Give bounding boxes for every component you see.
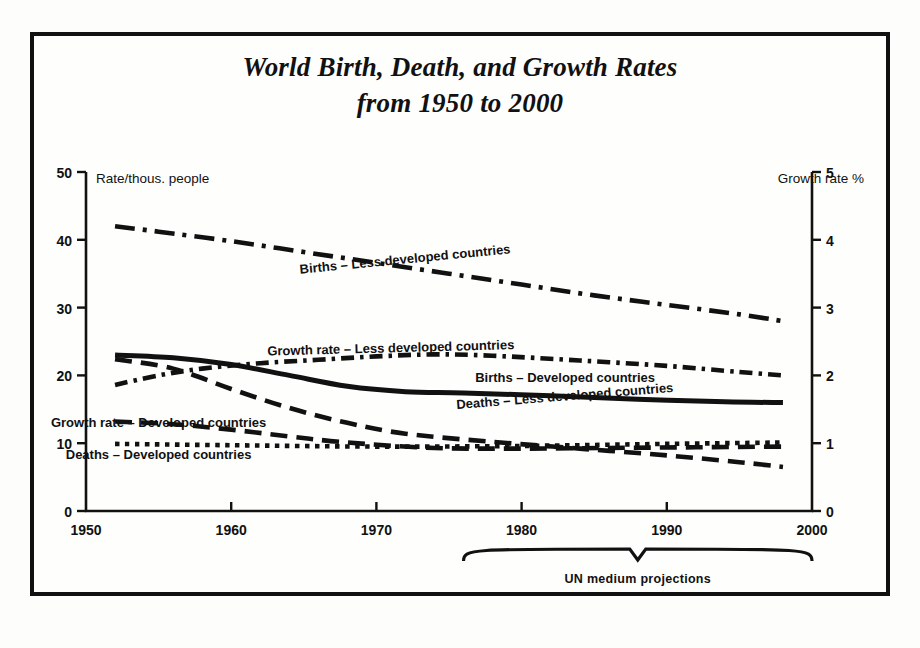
x-tick-label: 2000: [796, 522, 827, 538]
series-line: [115, 443, 783, 447]
y2-tick-label: 2: [826, 368, 834, 384]
x-tick-label: 1960: [216, 522, 247, 538]
y2-tick-label: 5: [826, 165, 834, 181]
y-tick-label: 30: [56, 301, 72, 317]
series-label: Births – Less developed countries: [299, 241, 511, 276]
series-line: [115, 355, 783, 402]
chart-frame: World Birth, Death, and Growth Rates fro…: [30, 32, 890, 596]
plot-area: 0102030405001234519501960197019801990200…: [34, 36, 886, 592]
series-line: [115, 354, 783, 385]
brace-annotation-label: UN medium projections: [564, 572, 711, 586]
series-line: [115, 226, 783, 321]
y-tick-label: 0: [64, 504, 72, 520]
y2-tick-label: 0: [826, 504, 834, 520]
y2-tick-label: 3: [826, 301, 834, 317]
x-tick-label: 1950: [70, 522, 101, 538]
series-label: Growth rate – Developed countries: [51, 415, 266, 430]
y-tick-label: 40: [56, 233, 72, 249]
series-label: Deaths – Developed countries: [66, 447, 252, 462]
x-tick-label: 1970: [361, 522, 392, 538]
y-tick-label: 50: [56, 165, 72, 181]
chart-page: World Birth, Death, and Growth Rates fro…: [0, 0, 920, 648]
x-tick-label: 1980: [506, 522, 537, 538]
y2-tick-label: 1: [826, 436, 834, 452]
y2-tick-label: 4: [826, 233, 834, 249]
y-tick-label: 20: [56, 368, 72, 384]
x-tick-label: 1990: [651, 522, 682, 538]
